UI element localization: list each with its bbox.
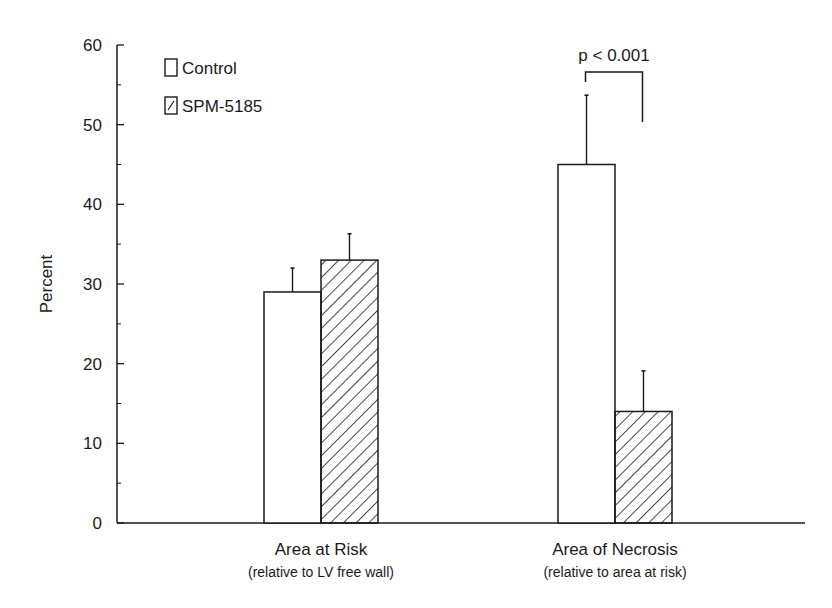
y-tick-label: 10 xyxy=(83,434,102,453)
category-labels: Area at Risk(relative to LV free wall)Ar… xyxy=(248,540,687,580)
y-axis-ticks: 0102030405060 xyxy=(83,36,124,533)
p-value-label: p < 0.001 xyxy=(578,46,649,65)
bar-control-1 xyxy=(558,165,615,524)
y-tick-label: 20 xyxy=(83,355,102,374)
bar-spm-5185-1 xyxy=(615,411,672,523)
bar-spm-5185-0 xyxy=(321,260,378,523)
legend: Control SPM-5185 xyxy=(165,59,262,116)
legend-label-control: Control xyxy=(182,59,237,78)
x-category-sublabel: (relative to LV free wall) xyxy=(248,564,394,580)
y-tick-label: 50 xyxy=(83,116,102,135)
significance-bracket xyxy=(586,72,643,122)
bar-chart: 0102030405060 Percent Control SPM-5185 A… xyxy=(0,0,832,608)
y-tick-label: 60 xyxy=(83,36,102,55)
x-category-sublabel: (relative to area at risk) xyxy=(543,564,686,580)
legend-swatch-control xyxy=(165,59,177,76)
significance-annotation: p < 0.001 xyxy=(578,46,649,122)
y-axis-title: Percent xyxy=(37,254,56,313)
y-tick-label: 0 xyxy=(93,514,102,533)
x-category-label: Area at Risk xyxy=(275,540,368,559)
y-tick-label: 30 xyxy=(83,275,102,294)
legend-label-spm: SPM-5185 xyxy=(182,97,262,116)
bars xyxy=(264,165,672,524)
bar-control-0 xyxy=(264,292,321,523)
axes xyxy=(117,45,805,523)
y-tick-label: 40 xyxy=(83,195,102,214)
x-category-label: Area of Necrosis xyxy=(552,540,678,559)
